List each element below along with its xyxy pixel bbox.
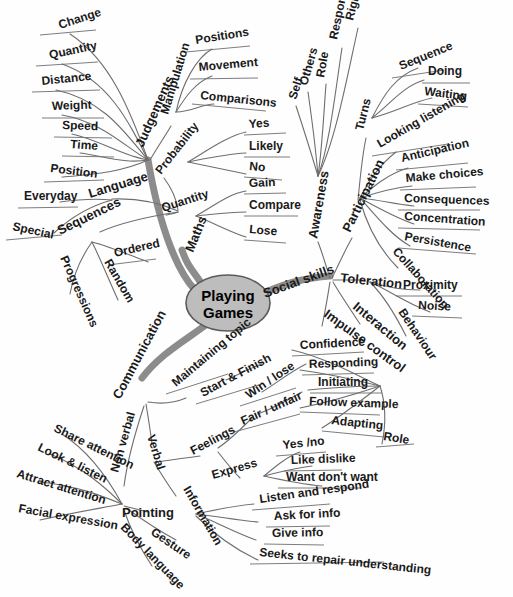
mindmap-node-adapting[interactable]: Adapting (331, 413, 384, 432)
mindmap-node-movement[interactable]: Movement (198, 55, 258, 74)
mindmap-node-quantity-m[interactable]: Quantity (160, 186, 211, 214)
mindmap-node-everyday[interactable]: Everyday (24, 189, 78, 203)
mindmap-node-express[interactable]: Express (210, 455, 259, 481)
mindmap-node-make-choices[interactable]: Make choices (405, 164, 484, 185)
mindmap-node-maths[interactable]: Maths (182, 214, 210, 254)
mindmap-edge (308, 92, 318, 176)
mindmap-node-toleration[interactable]: Toleration (340, 270, 403, 291)
label-underline (190, 78, 258, 79)
mindmap-node-social-skills[interactable]: Social skills (261, 261, 336, 301)
mindmap-node-awareness[interactable]: Awareness (305, 170, 332, 240)
mindmap-node-change[interactable]: Change (57, 5, 103, 32)
label-underline (40, 30, 96, 35)
label-underline (18, 207, 78, 208)
mindmap-edge (360, 200, 398, 268)
mindmap-edge (318, 28, 358, 176)
mindmap-node-ask-for-info[interactable]: Ask for info (273, 506, 340, 523)
mindmap-node-ordered[interactable]: Ordered (113, 236, 162, 260)
mindmap-node-rights[interactable]: Rights (342, 0, 365, 22)
mindmap-node-yes[interactable]: Yes (248, 116, 270, 131)
mindmap-node-no[interactable]: No (249, 159, 266, 174)
mindmap-node-turns[interactable]: Turns (352, 97, 374, 132)
mindmap-node-role2[interactable]: Role (383, 429, 411, 447)
label-underline (412, 316, 462, 318)
label-underline (322, 431, 384, 437)
mindmap-node-weight[interactable]: Weight (52, 98, 92, 113)
mindmap-node-seeks-to-repair[interactable]: Seeks to repair understanding (259, 545, 432, 577)
mindmap-edge (188, 132, 246, 162)
mindmap-node-confidence[interactable]: Confidence (299, 335, 365, 352)
mindmap-node-lose[interactable]: Lose (249, 222, 278, 238)
mindmap-edge (148, 398, 186, 403)
mindmap-node-position[interactable]: Position (50, 161, 99, 181)
mindmap-node-consequences[interactable]: Consequences (404, 191, 490, 208)
mindmap-node-noise[interactable]: Noise (418, 298, 452, 314)
mindmap-node-like-dislike[interactable]: Like dislike (291, 451, 356, 467)
mindmap-node-speed[interactable]: Speed (62, 118, 98, 133)
mindmap-node-verbal[interactable]: Verbal (144, 433, 168, 472)
label-underline (400, 187, 476, 190)
root-node[interactable]: Playing Games (186, 275, 270, 331)
mindmap-edge (196, 212, 246, 216)
label-underline (32, 90, 100, 92)
mindmap-node-compare[interactable]: Compare (249, 198, 301, 212)
mindmap-edge (188, 162, 246, 174)
mindmap-node-likely[interactable]: Likely (249, 139, 283, 153)
mindmap-node-doing[interactable]: Doing (428, 64, 462, 78)
mindmap-node-initiating[interactable]: Initiating (318, 375, 368, 389)
mindmap-edge (80, 153, 148, 161)
mindmap-node-give-info[interactable]: Give info (272, 525, 324, 540)
mindmap-node-gain[interactable]: Gain (249, 175, 276, 190)
mindmap-node-responding[interactable]: Responding (309, 355, 379, 371)
label-underline (244, 133, 286, 135)
mindmap-edge (372, 80, 424, 118)
root-label-line1: Playing (201, 287, 254, 304)
mindmap-node-quantity-j[interactable]: Quantity (48, 38, 99, 62)
mindmap-node-feelings[interactable]: Feelings (188, 422, 238, 457)
mindmap-node-anticipation[interactable]: Anticipation (400, 136, 471, 165)
mindmap-node-probability[interactable]: Probability (152, 119, 201, 177)
mindmap-node-information[interactable]: Information (180, 484, 225, 548)
mind-map-canvas: Playing Games JudgementsManipulationPosi… (0, 0, 513, 597)
mindmap-node-yes-no[interactable]: Yes /no (282, 434, 325, 452)
mindmap-node-follow-example[interactable]: Follow example (309, 394, 399, 411)
mindmap-edge (188, 153, 246, 162)
label-underline (244, 240, 286, 243)
mindmap-edge (148, 160, 195, 290)
mindmap-node-positions[interactable]: Positions (194, 25, 250, 47)
label-underline (264, 544, 324, 545)
mindmap-node-comparisons[interactable]: Comparisons (200, 88, 278, 110)
mindmap-node-participation[interactable]: Participation (339, 157, 387, 234)
label-underline (62, 156, 114, 157)
mindmap-node-concentration[interactable]: Concentration (404, 209, 486, 229)
mindmap-node-pointing[interactable]: Pointing (122, 505, 174, 520)
mindmap-node-distance[interactable]: Distance (41, 69, 93, 88)
mindmap-node-special[interactable]: Special (11, 219, 55, 241)
mindmap-node-proximity[interactable]: Proximity (403, 278, 458, 292)
mindmap-node-time[interactable]: Time (70, 137, 99, 153)
label-underline (244, 193, 286, 194)
